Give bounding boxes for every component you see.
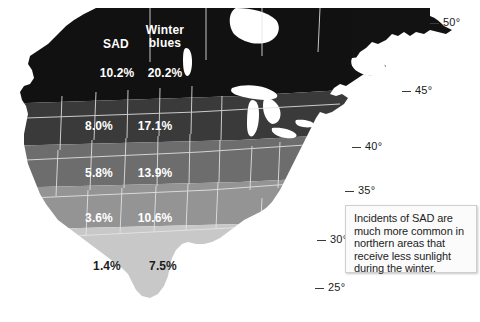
band-3-blues-value: 13.9% bbox=[128, 166, 182, 180]
sad-column-header: SAD bbox=[90, 38, 142, 51]
latitude-tick-35: 35° bbox=[345, 184, 375, 196]
florida-gap bbox=[268, 240, 288, 266]
latitude-tick-25-label: 25° bbox=[328, 281, 345, 293]
tick-dash-icon bbox=[315, 288, 324, 289]
latitude-tick-45: 45° bbox=[402, 84, 432, 96]
gulf-of-mexico bbox=[194, 246, 260, 268]
latitude-tick-50: 50° bbox=[430, 16, 460, 28]
band-5-blues-value: 7.5% bbox=[136, 259, 190, 273]
band-5-sad-value: 1.4% bbox=[80, 259, 134, 273]
sad-latitude-map-figure: SAD Winter blues 10.2% 20.2% 8.0% 17.1% … bbox=[0, 0, 480, 322]
band-4-sad-value: 3.6% bbox=[72, 211, 126, 225]
caption-text: Incidents of SAD are much more common in… bbox=[354, 212, 469, 275]
tick-dash-icon bbox=[345, 191, 354, 192]
winter-blues-header-line2: blues bbox=[136, 37, 194, 50]
latitude-tick-25: 25° bbox=[315, 281, 345, 293]
band-1-blues-value: 20.2% bbox=[138, 66, 192, 80]
tick-dash-icon bbox=[430, 23, 439, 24]
latitude-tick-30: 30° bbox=[317, 233, 347, 245]
tick-dash-icon bbox=[317, 240, 326, 241]
band-1-sad-value: 10.2% bbox=[90, 66, 144, 80]
tick-dash-icon bbox=[402, 91, 411, 92]
band-2-blues-value: 17.1% bbox=[128, 119, 182, 133]
latitude-tick-40: 40° bbox=[352, 140, 382, 152]
band-3-sad-value: 5.8% bbox=[72, 166, 126, 180]
tick-dash-icon bbox=[352, 147, 361, 148]
latitude-tick-35-label: 35° bbox=[358, 184, 375, 196]
winter-blues-column-header: Winter blues bbox=[136, 24, 194, 50]
latitude-tick-45-label: 45° bbox=[415, 84, 432, 96]
band-2-sad-value: 8.0% bbox=[72, 119, 126, 133]
latitude-tick-50-label: 50° bbox=[443, 16, 460, 28]
caption-box: Incidents of SAD are much more common in… bbox=[345, 205, 477, 273]
latitude-tick-40-label: 40° bbox=[365, 140, 382, 152]
band-4-blues-value: 10.6% bbox=[128, 211, 182, 225]
